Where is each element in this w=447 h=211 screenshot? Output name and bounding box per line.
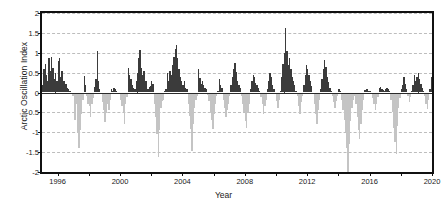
x-tick-label: 1996 bbox=[49, 177, 66, 186]
bar-negative bbox=[363, 93, 364, 101]
gridline bbox=[42, 152, 432, 153]
bar-negative bbox=[82, 93, 83, 101]
bar-negative bbox=[266, 93, 267, 101]
bar-negative bbox=[163, 93, 164, 100]
x-tick-mark bbox=[182, 172, 183, 176]
x-tick-mark bbox=[120, 172, 121, 176]
x-tick-mark bbox=[307, 172, 308, 176]
x-tick-label: 2016 bbox=[361, 177, 378, 186]
y-tick-label: 0 bbox=[35, 88, 39, 97]
gridline bbox=[42, 33, 432, 34]
x-tick-mark-minor bbox=[401, 172, 402, 176]
zero-line bbox=[42, 93, 432, 94]
y-tick-label: 2 bbox=[35, 9, 39, 18]
x-tick-mark-minor bbox=[89, 172, 90, 176]
bar-negative bbox=[110, 93, 111, 101]
plot-area: 21.510.50-0.5-1-1.5-21996200020042008201… bbox=[40, 11, 434, 174]
bottom-caption-artifact bbox=[250, 203, 447, 211]
x-tick-mark-minor bbox=[338, 172, 339, 176]
x-tick-label: 2000 bbox=[112, 177, 129, 186]
gridline bbox=[42, 73, 432, 74]
y-tick-label: -0.5 bbox=[26, 108, 39, 117]
x-tick-label: 2004 bbox=[174, 177, 191, 186]
y-tick-label: -2 bbox=[32, 168, 39, 177]
y-tick-label: 1.5 bbox=[29, 28, 39, 37]
x-tick-label: 2020 bbox=[424, 177, 441, 186]
bar-negative bbox=[279, 93, 280, 100]
x-tick-mark bbox=[245, 172, 246, 176]
bar-positive bbox=[85, 85, 86, 93]
x-tick-label: 2008 bbox=[236, 177, 253, 186]
y-tick-label: -1 bbox=[32, 128, 39, 137]
gridline bbox=[42, 112, 432, 113]
y-tick-label: -1.5 bbox=[26, 148, 39, 157]
y-tick-label: 0.5 bbox=[29, 68, 39, 77]
bar-negative bbox=[428, 93, 429, 101]
chart-figure: Arctic Oscillation Index Year 21.510.50-… bbox=[0, 0, 447, 211]
x-tick-mark bbox=[432, 172, 433, 176]
y-axis-label: Arctic Oscillation Index bbox=[19, 6, 29, 166]
gridline bbox=[42, 132, 432, 133]
x-tick-mark-minor bbox=[151, 172, 152, 176]
x-tick-label: 2012 bbox=[299, 177, 316, 186]
gridline bbox=[42, 53, 432, 54]
x-tick-mark-minor bbox=[276, 172, 277, 176]
x-axis-label: Year bbox=[0, 190, 447, 200]
x-tick-mark-minor bbox=[214, 172, 215, 176]
bar-negative bbox=[319, 93, 320, 101]
plot-inner bbox=[42, 13, 432, 172]
bar-negative bbox=[249, 93, 250, 104]
y-tick-label: 1 bbox=[35, 48, 39, 57]
gridline bbox=[42, 13, 432, 14]
bar-positive bbox=[152, 84, 153, 93]
x-tick-mark bbox=[58, 172, 59, 176]
x-tick-mark bbox=[370, 172, 371, 176]
